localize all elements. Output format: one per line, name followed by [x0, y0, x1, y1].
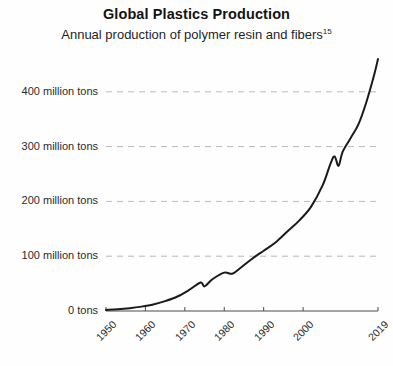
- chart-figure: Global Plastics Production Annual produc…: [0, 0, 393, 366]
- y-axis-label: 100 million tons: [2, 249, 98, 261]
- y-axis-label: 400 million tons: [2, 85, 98, 97]
- y-axis-label: 200 million tons: [2, 194, 98, 206]
- x-tickmarks-group: [106, 307, 378, 311]
- y-axis-label: 300 million tons: [2, 140, 98, 152]
- gridlines-group: [106, 92, 378, 256]
- y-axis-label: 0 tons: [2, 304, 98, 316]
- data-series-line: [106, 59, 378, 310]
